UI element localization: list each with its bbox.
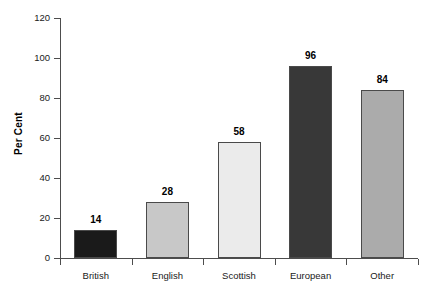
y-tick-label: 20 bbox=[0, 213, 50, 223]
y-tick-label: 100 bbox=[0, 53, 50, 63]
bar-value-label-british: 14 bbox=[66, 215, 126, 225]
y-tick-label: 40 bbox=[0, 173, 50, 183]
x-tick-mark bbox=[132, 259, 133, 265]
y-tick-mark bbox=[54, 18, 61, 19]
y-tick-mark bbox=[54, 178, 61, 179]
bar-scottish bbox=[218, 142, 261, 258]
bar-value-label-other: 84 bbox=[352, 75, 412, 85]
x-tick-mark bbox=[346, 259, 347, 265]
bar-value-label-european: 96 bbox=[281, 51, 341, 61]
x-category-label-other: Other bbox=[342, 271, 422, 281]
y-tick-label: 120 bbox=[0, 13, 50, 23]
y-tick-mark bbox=[54, 218, 61, 219]
y-tick-mark bbox=[54, 98, 61, 99]
bar-british bbox=[74, 230, 117, 258]
bar-other bbox=[361, 90, 404, 258]
y-tick-mark bbox=[54, 138, 61, 139]
x-tick-mark bbox=[60, 259, 61, 265]
y-tick-label: 60 bbox=[0, 133, 50, 143]
y-tick-mark bbox=[54, 58, 61, 59]
bar-european bbox=[289, 66, 332, 258]
bar-chart: Per Cent 020406080100120 1428589684 Brit… bbox=[0, 0, 430, 295]
y-tick-label: 0 bbox=[0, 253, 50, 263]
bar-english bbox=[146, 202, 189, 258]
x-tick-mark bbox=[275, 259, 276, 265]
x-category-label-english: English bbox=[127, 271, 207, 281]
x-category-label-scottish: Scottish bbox=[199, 271, 279, 281]
x-axis-line bbox=[60, 258, 418, 259]
bar-value-label-scottish: 58 bbox=[209, 127, 269, 137]
bar-value-label-english: 28 bbox=[137, 187, 197, 197]
x-category-label-european: European bbox=[271, 271, 351, 281]
y-tick-label: 80 bbox=[0, 93, 50, 103]
x-category-label-british: British bbox=[56, 271, 136, 281]
x-tick-mark bbox=[418, 259, 419, 265]
x-tick-mark bbox=[203, 259, 204, 265]
